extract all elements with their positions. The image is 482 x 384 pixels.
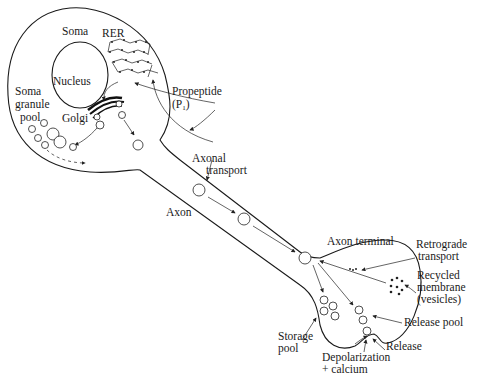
label-release: Release [386,340,422,352]
label-soma: Soma [62,25,88,37]
label-axon-terminal: Axon terminal [327,235,394,247]
retrograde-vesicle [349,268,357,271]
storage-pool-vesicles [320,296,339,320]
axon-vesicles [193,184,311,264]
label-release-pool: Release pool [404,316,463,329]
neuron-outline [8,8,421,348]
label-storage-pool-2: pool [278,342,298,355]
label-axonal-transport-2: transport [206,164,248,177]
label-retrograde-2: transport [418,250,460,263]
label-depolarization-2: + calcium [322,363,368,375]
label-soma-granule-pool-1: Soma [15,85,41,97]
label-recycled-2: membrane [417,281,466,293]
recycled-membrane-vesicles [390,277,404,296]
label-golgi: Golgi [62,112,88,125]
label-soma-granule-pool-3: pool [20,111,40,124]
label-recycled-3: (vesicles) [417,293,461,306]
release-pool-vesicles [355,306,371,335]
label-rer: RER [102,27,125,39]
label-axonal-transport-1: Axonal [192,152,226,164]
label-propeptide: Propeptide [172,85,222,98]
label-propeptide-symbol: (P1) [172,98,190,112]
label-axon: Axon [166,206,192,218]
label-nucleus: Nucleus [53,75,91,87]
label-soma-granule-pool-2: granule [15,98,49,111]
rer [108,39,158,77]
neuron-diagram: Soma RER Nucleus Soma granule pool Golgi… [0,0,482,384]
